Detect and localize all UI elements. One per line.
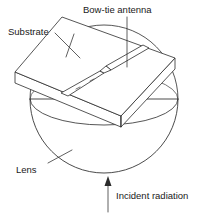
antenna-label: Bow-tie antenna: [83, 4, 152, 15]
incident-radiation-arrow: [105, 176, 112, 212]
diagram-canvas: Substrate Bow-tie antenna Lens Incident …: [0, 0, 211, 215]
figure-container: Substrate Bow-tie antenna Lens Incident …: [0, 0, 211, 215]
substrate-label: Substrate: [8, 26, 49, 37]
incident-radiation-label: Incident radiation: [116, 190, 188, 201]
lens-label: Lens: [16, 164, 37, 175]
incident-arrow-head: [105, 176, 112, 186]
